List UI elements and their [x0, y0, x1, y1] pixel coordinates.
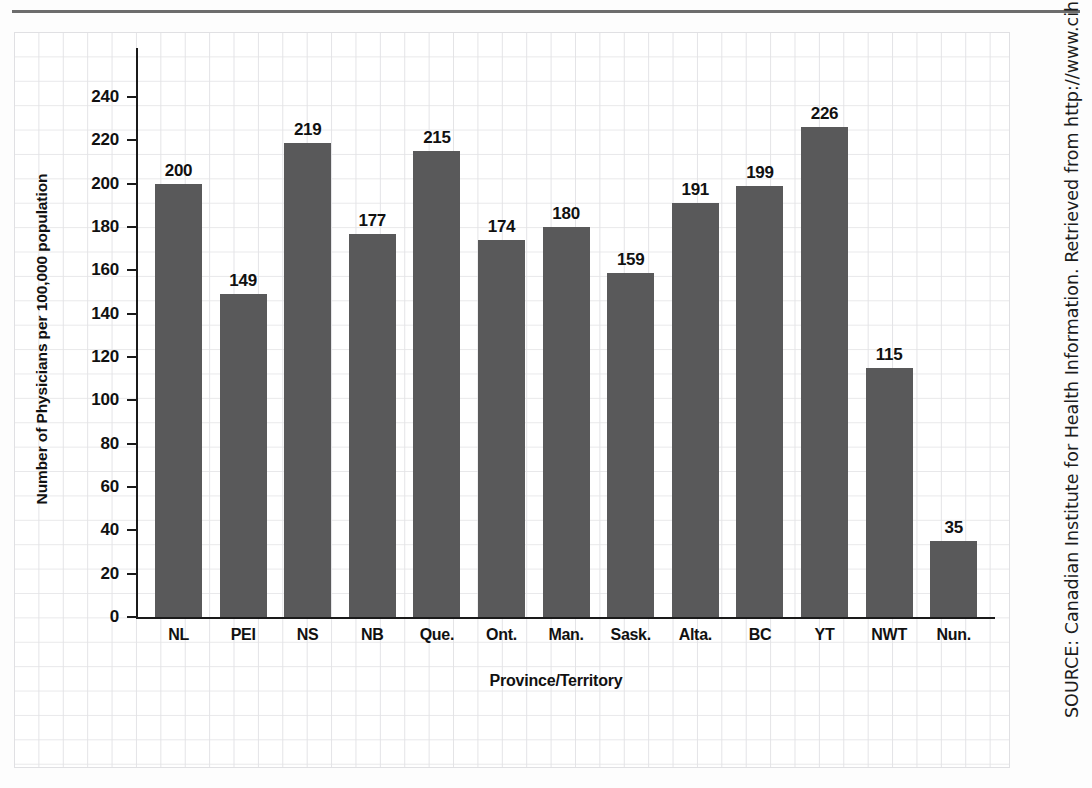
bar-yt[interactable] — [801, 127, 848, 617]
bar-value-label: 191 — [660, 180, 731, 203]
bar-ont[interactable] — [478, 240, 525, 617]
bar-column[interactable]: 174Ont. — [478, 240, 525, 617]
bar-column[interactable]: 226YT — [801, 127, 848, 617]
y-tick-label-text: 220 — [55, 130, 119, 150]
y-tick-label: 100 — [55, 390, 119, 410]
bar-bc[interactable] — [736, 186, 783, 617]
scanned-page: 020406080100120140160180200220240 Number… — [0, 0, 1092, 788]
y-tick-label: 80 — [55, 434, 119, 454]
y-axis-line — [136, 48, 138, 619]
bar-column[interactable]: 180Man. — [543, 227, 590, 617]
y-axis-title: Number of Physicians per 100,000 populat… — [33, 129, 51, 549]
bar-column[interactable]: 115NWT — [866, 368, 913, 617]
bar-value-label: 215 — [401, 128, 472, 151]
bar-pei[interactable] — [220, 294, 267, 617]
y-tick-mark — [127, 486, 138, 488]
y-tick-label-text: 20 — [55, 564, 119, 584]
y-tick-label-text: 40 — [55, 520, 119, 540]
bar-column[interactable]: 219NS — [284, 143, 331, 618]
source-note: SOURCE: Canadian Institute for Health In… — [1062, 58, 1082, 718]
y-tick-label-text: 180 — [55, 217, 119, 237]
y-tick-label-text: 240 — [55, 87, 119, 107]
bar-value-label: 180 — [531, 204, 602, 227]
y-tick-label: 40 — [55, 520, 119, 540]
y-tick-mark — [127, 313, 138, 315]
bar-ns[interactable] — [284, 143, 331, 618]
y-tick-mark — [127, 96, 138, 98]
bar-column[interactable]: 159Sask. — [607, 273, 654, 618]
y-tick-label: 220 — [55, 130, 119, 150]
y-tick-mark — [127, 573, 138, 575]
bar-nwt[interactable] — [866, 368, 913, 617]
bar-value-label: 159 — [595, 250, 666, 273]
bar-alta[interactable] — [672, 203, 719, 617]
x-category-label: Nun. — [916, 617, 991, 644]
y-tick-mark — [127, 356, 138, 358]
bar-man[interactable] — [543, 227, 590, 617]
y-tick-label: 140 — [55, 304, 119, 324]
y-tick-label: 240 — [55, 87, 119, 107]
y-tick-label: 200 — [55, 174, 119, 194]
y-tick-label-text: 60 — [55, 477, 119, 497]
y-tick-label: 180 — [55, 217, 119, 237]
y-tick-label-text: 0 — [55, 607, 119, 627]
bar-value-label: 149 — [208, 271, 279, 294]
y-tick-mark — [127, 139, 138, 141]
bar-value-label: 35 — [918, 518, 989, 541]
bar-column[interactable]: 35Nun. — [930, 541, 977, 617]
y-tick-label: 0 — [55, 607, 119, 627]
bar-value-label: 177 — [337, 211, 408, 234]
bar-column[interactable]: 191Alta. — [672, 203, 719, 617]
y-tick-mark — [127, 183, 138, 185]
bar-value-label: 199 — [724, 163, 795, 186]
y-tick-label-text: 100 — [55, 390, 119, 410]
bar-column[interactable]: 177NB — [349, 234, 396, 618]
bar-chart: 020406080100120140160180200220240 Number… — [0, 0, 1092, 788]
bar-column[interactable]: 215Que. — [413, 151, 460, 617]
y-tick-label-text: 200 — [55, 174, 119, 194]
y-tick-mark — [127, 226, 138, 228]
bar-column[interactable]: 200NL — [155, 184, 202, 617]
x-axis-title: Province/Territory — [136, 672, 976, 690]
y-tick-mark — [127, 529, 138, 531]
y-tick-mark — [127, 399, 138, 401]
bar-value-label: 200 — [143, 161, 214, 184]
y-tick-mark — [127, 269, 138, 271]
bar-sask[interactable] — [607, 273, 654, 618]
y-tick-label: 120 — [55, 347, 119, 367]
y-tick-label: 60 — [55, 477, 119, 497]
bar-column[interactable]: 149PEI — [220, 294, 267, 617]
bar-nl[interactable] — [155, 184, 202, 617]
bar-value-label: 219 — [272, 120, 343, 143]
y-tick-mark — [127, 443, 138, 445]
y-tick-mark — [127, 616, 138, 618]
y-tick-label-text: 160 — [55, 260, 119, 280]
y-tick-label-text: 120 — [55, 347, 119, 367]
bar-nun[interactable] — [930, 541, 977, 617]
y-tick-label-text: 140 — [55, 304, 119, 324]
y-tick-label: 160 — [55, 260, 119, 280]
bar-column[interactable]: 199BC — [736, 186, 783, 617]
bar-que[interactable] — [413, 151, 460, 617]
bar-value-label: 174 — [466, 217, 537, 240]
bar-nb[interactable] — [349, 234, 396, 618]
y-tick-label-text: 80 — [55, 434, 119, 454]
bar-value-label: 115 — [854, 345, 925, 368]
bar-value-label: 226 — [789, 104, 860, 127]
y-tick-label: 20 — [55, 564, 119, 584]
